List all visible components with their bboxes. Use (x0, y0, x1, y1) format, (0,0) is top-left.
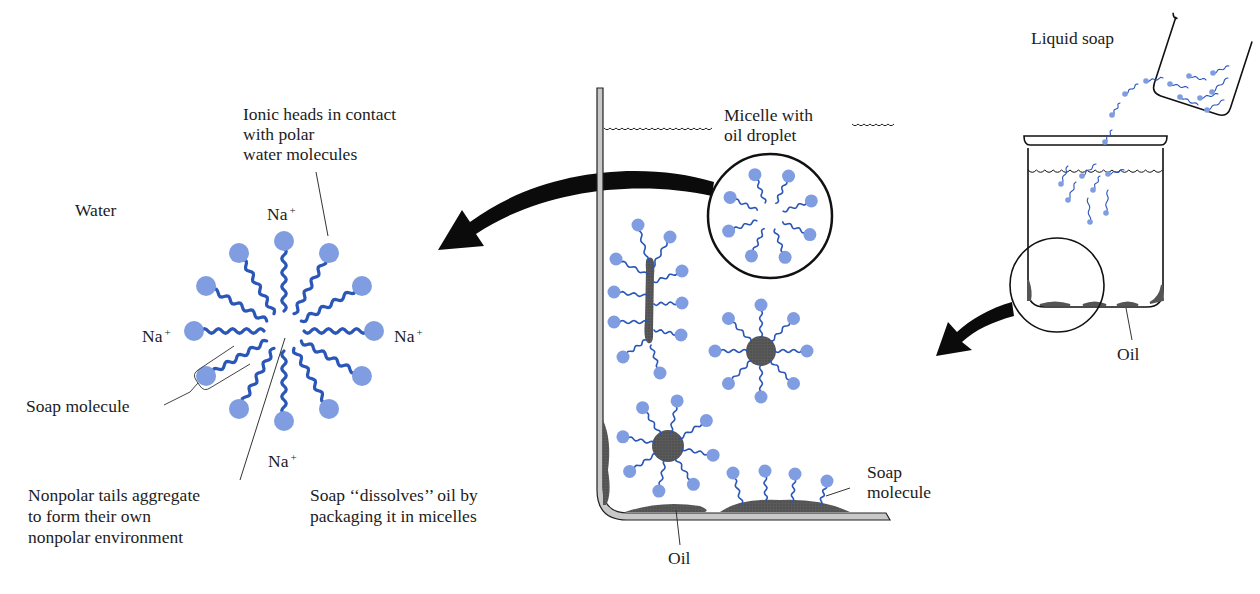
beaker-oil-label: Oil (1117, 344, 1139, 364)
water-surface-wave (604, 128, 712, 130)
ionic-head (789, 468, 802, 481)
oil-droplet-elongated (644, 258, 654, 344)
beaker-water-surface (1028, 170, 1162, 172)
ionic-head (229, 243, 249, 263)
ionic-head (745, 249, 758, 262)
ionic-head (1103, 210, 1109, 216)
ionic-head (229, 399, 249, 419)
ionic-heads-label-line1: Ionic heads in contact (243, 104, 396, 124)
soap-molecule-right-label-line1: Soap (867, 462, 902, 482)
ionic-head (707, 449, 720, 462)
ionic-head (671, 394, 684, 407)
nonpolar-tail (1106, 190, 1108, 213)
soap-dissolves-label-line2: packaging it in micelles (310, 506, 477, 526)
ionic-head (654, 367, 667, 380)
nonpolar-tail (1068, 182, 1076, 200)
ionic-heads-leader-line (316, 172, 328, 236)
ionic-head (1210, 70, 1216, 76)
magnifier-circle-icon (708, 154, 832, 278)
ionic-head (1186, 73, 1192, 79)
ionic-head (722, 225, 735, 238)
nonpolar-tail (239, 348, 274, 409)
ionic-head (632, 219, 645, 232)
oil-on-wall (603, 420, 610, 505)
ionic-head (196, 276, 216, 296)
ionic-head (1090, 187, 1096, 193)
ionic-head (184, 321, 204, 341)
micelle-with-oil-label-line1: Micelle with (724, 105, 813, 125)
nonpolar-tails-label-line3: nonpolar environment (28, 527, 183, 547)
soap-dissolves-label-line1: Soap ‘‘dissolves’’ oil by (310, 485, 478, 505)
ionic-head (727, 467, 740, 480)
nonpolar-tail (301, 286, 362, 322)
beaker-oil-leader-line (1126, 308, 1132, 340)
ionic-head (1197, 95, 1203, 101)
ionic-head (1105, 171, 1111, 177)
ionic-head (801, 345, 814, 358)
ionic-head (1102, 139, 1108, 145)
nonpolar-tail (239, 253, 275, 314)
ionic-head (1087, 219, 1093, 225)
ionic-head (352, 366, 372, 386)
soap-molecule-leader-line (826, 488, 850, 496)
beaker (1024, 136, 1167, 307)
nonpolar-tail (1061, 166, 1068, 184)
ionic-head (755, 299, 768, 312)
oil-puddle-left (625, 504, 707, 512)
ionic-head (664, 231, 677, 244)
micelle-with-oil-label-line2: oil droplet (724, 125, 796, 145)
oil-droplet-round (652, 430, 684, 462)
ionic-head (616, 430, 629, 443)
ionic-head (724, 191, 737, 204)
ionic-head (722, 312, 735, 325)
ionic-head (364, 321, 384, 341)
ionic-head (805, 194, 818, 207)
nonpolar-tail (294, 348, 330, 409)
ionic-head (652, 485, 665, 498)
ionic-head (274, 411, 294, 431)
ionic-head (755, 391, 768, 404)
ionic-head (722, 377, 735, 390)
soap-molecule-right-label-line2: molecule (867, 482, 931, 502)
tilted-beaker (1147, 13, 1253, 118)
ionic-head (608, 316, 621, 329)
ionic-head (748, 168, 761, 181)
ionic-head (608, 286, 621, 299)
ionic-head (352, 276, 372, 296)
ionic-head (1177, 94, 1183, 100)
ionic-head (1143, 78, 1149, 84)
ionic-head (1065, 197, 1071, 203)
ionic-head (319, 243, 339, 263)
ionic-head (1209, 89, 1215, 95)
nonpolar-tail (1087, 198, 1090, 222)
ionic-head (787, 312, 800, 325)
nonpolar-tail (282, 241, 286, 311)
oil-in-beaker (1028, 280, 1163, 305)
curved-arrow-down-left-icon (936, 302, 1014, 356)
ionic-head (687, 478, 700, 491)
ionic-head (1204, 107, 1210, 113)
nonpolar-tail (206, 286, 267, 321)
beaker-magnifier-circle (1010, 238, 1104, 332)
nonpolar-tails-label-line1: Nonpolar tails aggregate (28, 485, 200, 505)
large-micelle (184, 231, 384, 431)
liquid-soap-label: Liquid soap (1031, 28, 1114, 48)
ionic-head (700, 414, 713, 427)
ionic-head (1109, 112, 1115, 118)
ionic-head (676, 265, 689, 278)
oil-bottom-label: Oil (668, 548, 690, 568)
ionic-head (1167, 81, 1173, 87)
soap-molecule-label: Soap molecule (26, 396, 130, 416)
ionic-head (821, 475, 834, 488)
ionic-head (274, 231, 294, 251)
nonpolar-tails-label-line2: to form their own (28, 506, 151, 526)
ionic-head (779, 251, 792, 264)
ionic-head (675, 329, 688, 342)
ionic-head (709, 345, 722, 358)
nonpolar-tail (294, 253, 329, 314)
oil-puddle-right (720, 500, 850, 512)
ionic-head (1079, 173, 1085, 179)
ionic-head (610, 253, 623, 266)
ionic-head (782, 170, 795, 183)
ionic-head (759, 465, 772, 478)
